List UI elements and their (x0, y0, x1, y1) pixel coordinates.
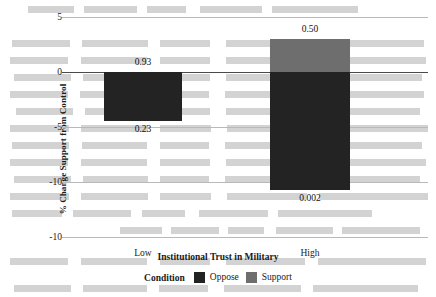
legend-title: Condition (144, 273, 185, 283)
legend-swatch-oppose-icon (194, 272, 205, 283)
legend-item-support[interactable]: Support (246, 272, 292, 283)
bar-low-oppose[interactable] (104, 72, 182, 121)
y-axis-tick-label: -5 (22, 123, 62, 133)
y-axis-tick-label: 0 (22, 68, 62, 78)
data-label-low-oppose: 0.23 (104, 125, 182, 135)
data-label-high-oppose: 0.002 (270, 194, 350, 204)
legend-item-oppose[interactable]: Oppose (194, 272, 239, 283)
x-axis-title: Institutional Trust in Military (0, 253, 436, 263)
y-axis-tick-label: 5 (22, 13, 62, 23)
gridline-neg10 (62, 182, 428, 183)
bar-high-support[interactable] (270, 39, 350, 72)
plot-area: 0.93 0.23 0.50 0.002 Low High (62, 17, 428, 237)
data-label-low-support: 0.93 (104, 58, 182, 68)
gridline-bottom (62, 237, 428, 238)
legend-label-oppose: Oppose (210, 273, 239, 283)
legend-swatch-support-icon (246, 272, 257, 283)
y-axis-tick-label: -10 (22, 233, 62, 243)
y-axis-tick-label: -10 (22, 178, 62, 188)
data-label-high-support: 0.50 (270, 25, 350, 35)
gridline-5 (62, 17, 428, 18)
legend: Condition Oppose Support (0, 272, 436, 283)
bar-chart: % Change Support from Control 5 0 -5 -10… (0, 0, 436, 297)
legend-label-support: Support (262, 273, 292, 283)
bar-high-oppose[interactable] (270, 72, 350, 190)
